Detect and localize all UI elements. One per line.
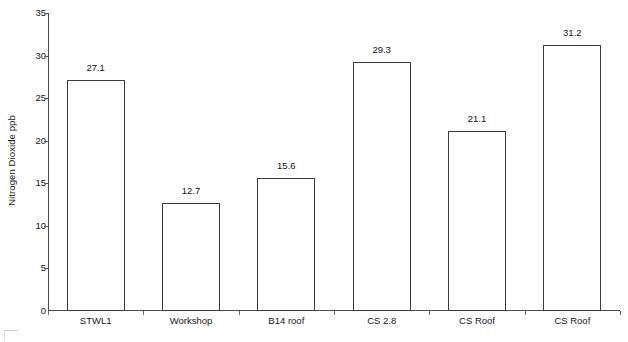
bar-value-label: 27.1 [86,63,105,73]
x-axis-category-label: CS Roof [554,315,590,326]
bar [162,203,220,311]
y-axis-tick-label: 0 [24,306,46,316]
x-axis-tick-mark [620,311,621,315]
bar-group: 12.7 [143,13,238,311]
bar [543,45,601,311]
bars-layer: 27.112.715.629.321.131.2 [48,13,620,311]
y-axis-tick-label: 35 [24,8,46,18]
y-axis-title-text: Nitrogen Dioxide ppb [6,115,17,206]
x-axis-category-label: STWL1 [80,315,112,326]
bar-group: 31.2 [525,13,620,311]
scan-artifact [4,330,18,339]
bar-group: 29.3 [334,13,429,311]
y-axis-title: Nitrogen Dioxide ppb [0,0,22,320]
bar-value-label: 21.1 [468,114,487,124]
x-axis-category-label: Workshop [170,315,213,326]
x-axis-category-labels: STWL1WorkshopB14 roofCS 2.8CS RoofCS Roo… [48,313,620,333]
bar-group: 21.1 [429,13,524,311]
plot-area: 27.112.715.629.321.131.2 [48,13,620,311]
bar-group: 15.6 [239,13,334,311]
y-axis-tick-label: 15 [24,178,46,188]
y-axis-tick-labels: 05101520253035 [22,0,46,342]
bar-value-label: 12.7 [182,186,201,196]
bar-value-label: 31.2 [563,28,582,38]
bar [353,62,411,311]
bar-group: 27.1 [48,13,143,311]
bar [448,131,506,311]
bar [67,80,125,311]
bar-value-label: 15.6 [277,161,296,171]
y-axis-tick-label: 5 [24,263,46,273]
y-axis-tick-label: 20 [24,136,46,146]
bar [257,178,315,311]
y-axis-tick-label: 25 [24,93,46,103]
y-axis-tick-label: 30 [24,51,46,61]
bar-value-label: 29.3 [372,45,391,55]
x-axis-category-label: CS Roof [459,315,495,326]
y-axis-tick-label: 10 [24,221,46,231]
x-axis-category-label: CS 2.8 [367,315,396,326]
x-axis-category-label: B14 roof [268,315,304,326]
bar-chart-figure: Nitrogen Dioxide ppb 05101520253035 27.1… [0,0,628,342]
